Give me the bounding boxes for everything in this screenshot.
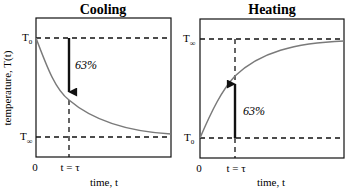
x-axis-label: time, t	[257, 176, 285, 188]
plot-frame	[36, 18, 171, 157]
percent-annotation: 63%	[243, 104, 265, 118]
decay-curve	[36, 38, 171, 134]
x-tick-tau: t = τ	[60, 161, 80, 173]
percent-annotation: 63%	[75, 58, 97, 72]
figure: Cooling 63% T0 T∞ 0 t = τ time, t temper…	[0, 0, 352, 191]
y-axis-label: temperature, T(t)	[1, 50, 14, 125]
x-tick-zero: 0	[196, 162, 202, 174]
y-tick-t0: T0	[22, 31, 33, 46]
chart-title: Cooling	[80, 2, 127, 17]
plot-frame	[200, 19, 344, 158]
x-tick-tau: t = τ	[226, 162, 246, 174]
chart-title: Heating	[248, 2, 295, 17]
y-tick-t0: T0	[184, 131, 195, 146]
x-tick-zero: 0	[32, 161, 38, 173]
cooling-chart: Cooling 63% T0 T∞ 0 t = τ time, t temper…	[1, 2, 171, 188]
rise-curve	[200, 41, 344, 138]
heating-chart: Heating 63% T∞ T0 0 t = τ time, t	[183, 2, 344, 188]
y-tick-tinf: T∞	[183, 32, 196, 48]
x-axis-label: time, t	[90, 176, 118, 188]
y-tick-tinf: T∞	[20, 130, 33, 146]
